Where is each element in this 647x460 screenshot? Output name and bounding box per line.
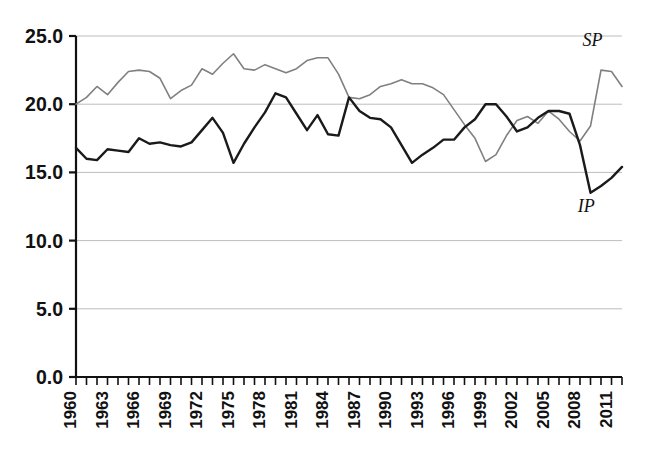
line-chart: 0.05.010.015.020.025.0 19601963196619691… — [0, 0, 647, 460]
y-tick-label: 20.0 — [25, 93, 63, 115]
x-tick-label: 2005 — [534, 391, 553, 429]
chart-canvas: 0.05.010.015.020.025.0 19601963196619691… — [0, 0, 647, 460]
x-axis — [76, 377, 622, 385]
series-line-sp — [76, 54, 622, 162]
x-tick-label: 1990 — [376, 391, 395, 429]
x-tick-label: 1981 — [282, 391, 301, 429]
series-label-ip: IP — [577, 196, 595, 216]
y-tick-label: 5.0 — [36, 298, 63, 320]
y-tick-label: 15.0 — [25, 161, 63, 183]
x-tick-label: 1993 — [408, 391, 427, 429]
x-tick-label: 1996 — [439, 391, 458, 429]
x-tick-label: 1999 — [471, 391, 490, 429]
x-tick-label: 1972 — [187, 391, 206, 429]
y-tick-label: 10.0 — [25, 230, 63, 252]
x-tick-label: 2008 — [565, 391, 584, 429]
y-axis — [69, 36, 76, 377]
x-tick-label: 1987 — [345, 391, 364, 429]
series-line-ip — [76, 93, 622, 193]
y-tick-label: 25.0 — [25, 25, 63, 47]
x-tick-label: 1960 — [61, 391, 80, 429]
x-tick-label: 2002 — [502, 391, 521, 429]
x-tick-label: 1978 — [250, 391, 269, 429]
x-tick-label: 1975 — [219, 391, 238, 429]
x-tick-label: 1984 — [313, 390, 332, 428]
y-tick-labels: 0.05.010.015.020.025.0 — [25, 25, 63, 388]
x-tick-label: 1966 — [124, 391, 143, 429]
x-tick-label: 1969 — [156, 391, 175, 429]
x-tick-label: 2011 — [597, 391, 616, 428]
x-tick-labels: 1960196319661969197219751978198119841987… — [61, 390, 616, 428]
x-tick-label: 1963 — [93, 391, 112, 429]
y-tick-label: 0.0 — [36, 366, 63, 388]
series-label-sp: SP — [583, 30, 603, 50]
